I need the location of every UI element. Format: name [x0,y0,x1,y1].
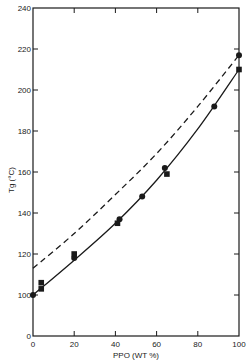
circle-marker [139,194,145,200]
x-tick-label: 60 [152,340,161,349]
x-axis-ticks: 020406080100 [31,8,246,349]
x-tick-label: 0 [31,340,36,349]
square-marker [38,280,44,286]
y-tick-label: 200 [18,86,32,95]
circle-marker [236,52,242,58]
y-axis-ticks: 0100120140160180200220240 [18,4,239,341]
y-tick-label: 120 [18,250,32,259]
square-marker [236,67,242,73]
x-axis-title: PPO (WT %) [113,351,159,360]
x-tick-label: 100 [232,340,246,349]
circle-marker [30,292,36,298]
y-axis-title: Tg (°C) [7,167,16,193]
solid-fit-line [33,70,239,296]
square-marker [115,220,121,226]
data-markers [30,52,242,298]
x-tick-label: 20 [70,340,79,349]
y-tick-label: 160 [18,168,32,177]
y-tick-label: 0 [27,332,32,341]
x-tick-label: 40 [111,340,120,349]
square-marker [71,251,77,257]
plot-frame [33,8,239,336]
circle-marker [162,165,168,171]
circle-marker [211,103,217,109]
tg-vs-ppo-chart: 020406080100 0100120140160180200220240 P… [0,0,252,361]
x-tick-label: 80 [193,340,202,349]
y-tick-label: 180 [18,127,32,136]
square-marker [38,286,44,292]
dashed-fit-line [33,55,239,268]
y-tick-label: 240 [18,4,32,13]
y-tick-label: 140 [18,209,32,218]
y-tick-label: 220 [18,45,32,54]
y-tick-label: 100 [18,291,32,300]
fit-lines [33,55,239,295]
square-marker [164,171,170,177]
